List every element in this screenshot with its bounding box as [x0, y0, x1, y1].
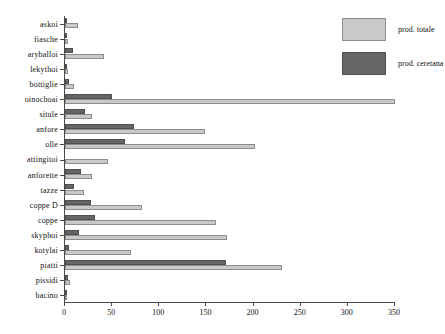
- category-label: coppe D: [30, 200, 58, 209]
- y-tick-mark: [60, 190, 64, 191]
- bar-prod-totale: [65, 205, 142, 210]
- category-label: tazze: [41, 185, 58, 194]
- x-tick-label: 350: [388, 308, 400, 317]
- category-label: coppe: [38, 215, 58, 224]
- y-tick-mark: [60, 220, 64, 221]
- y-tick-mark: [60, 175, 64, 176]
- table-row: anforette: [64, 167, 394, 182]
- y-tick-mark: [60, 205, 64, 206]
- y-tick-mark: [60, 24, 64, 25]
- category-label: askoi: [40, 19, 58, 28]
- table-row: bacino: [64, 288, 394, 303]
- category-label: skyphoi: [31, 231, 58, 240]
- table-row: bottiglie: [64, 76, 394, 91]
- bar-prod-totale: [65, 190, 84, 195]
- y-tick-mark: [60, 39, 64, 40]
- legend-label: prod. totale: [398, 25, 434, 34]
- y-tick-mark: [60, 280, 64, 281]
- category-label: pissidi: [36, 276, 58, 285]
- x-tick-label: 250: [294, 308, 306, 317]
- category-label: bottiglie: [30, 79, 58, 88]
- x-tick-mark: [205, 302, 206, 306]
- table-row: kotylai: [64, 243, 394, 258]
- bar-prod-totale: [65, 235, 227, 240]
- bar-prod-totale: [65, 159, 108, 164]
- table-row: pissidi: [64, 273, 394, 288]
- category-label: situle: [39, 110, 58, 119]
- bar-prod-totale: [65, 280, 70, 285]
- bar-prod-totale: [65, 295, 67, 300]
- category-label: piatti: [40, 261, 58, 270]
- x-tick-mark: [253, 302, 254, 306]
- y-tick-mark: [60, 129, 64, 130]
- x-tick-label: 100: [152, 308, 164, 317]
- bar-prod-totale: [65, 23, 78, 28]
- x-tick-mark: [111, 302, 112, 306]
- legend-swatch-total: [342, 18, 386, 41]
- y-tick-mark: [60, 235, 64, 236]
- y-tick-mark: [60, 265, 64, 266]
- bar-prod-totale: [65, 174, 92, 179]
- legend-item: prod. totale: [342, 18, 434, 41]
- x-tick-mark: [300, 302, 301, 306]
- y-tick-mark: [60, 54, 64, 55]
- bar-prod-totale: [65, 99, 395, 104]
- bar-prod-totale: [65, 220, 216, 225]
- table-row: situle: [64, 107, 394, 122]
- table-row: attingitoi: [64, 152, 394, 167]
- category-label: attingitoi: [27, 155, 58, 164]
- category-label: lekythoi: [30, 64, 58, 73]
- x-tick-mark: [158, 302, 159, 306]
- legend-swatch-ceretana: [342, 52, 386, 75]
- table-row: piatti: [64, 258, 394, 273]
- x-tick-label: 300: [341, 308, 353, 317]
- x-tick-mark: [347, 302, 348, 306]
- x-tick-mark: [394, 302, 395, 306]
- bar-prod-totale: [65, 54, 104, 59]
- x-tick-label: 200: [247, 308, 259, 317]
- table-row: skyphoi: [64, 227, 394, 242]
- bar-prod-totale: [65, 69, 68, 74]
- y-tick-mark: [60, 84, 64, 85]
- y-tick-mark: [60, 69, 64, 70]
- legend-item: prod. ceretana: [342, 52, 443, 75]
- x-tick-label: 50: [107, 308, 115, 317]
- bar-prod-totale: [65, 84, 74, 89]
- category-label: anfore: [36, 125, 58, 134]
- category-label: olle: [45, 140, 58, 149]
- bar-prod-totale: [65, 265, 282, 270]
- y-tick-mark: [60, 250, 64, 251]
- category-label: aryballoi: [28, 49, 58, 58]
- x-tick-mark: [64, 302, 65, 306]
- y-tick-mark: [60, 114, 64, 115]
- y-tick-mark: [60, 160, 64, 161]
- bar-prod-totale: [65, 39, 68, 44]
- table-row: oinochoai: [64, 92, 394, 107]
- y-tick-mark: [60, 295, 64, 296]
- x-tick-label: 150: [199, 308, 211, 317]
- bar-prod-totale: [65, 114, 92, 119]
- bar-prod-totale: [65, 250, 131, 255]
- bar-prod-totale: [65, 144, 255, 149]
- table-row: coppe: [64, 212, 394, 227]
- category-label: oinochoai: [25, 95, 58, 104]
- y-tick-mark: [60, 144, 64, 145]
- table-row: tazze: [64, 182, 394, 197]
- category-label: anforette: [28, 170, 58, 179]
- category-label: kotylai: [34, 246, 58, 255]
- y-tick-mark: [60, 99, 64, 100]
- bar-chart: askoifiaschearyballoilekythoibottiglieoi…: [0, 0, 445, 334]
- category-label: fiasche: [34, 34, 58, 43]
- x-tick-label: 0: [62, 308, 66, 317]
- table-row: olle: [64, 137, 394, 152]
- table-row: coppe D: [64, 197, 394, 212]
- category-label: bacino: [35, 291, 58, 300]
- table-row: anfore: [64, 122, 394, 137]
- bar-prod-totale: [65, 129, 205, 134]
- legend-label: prod. ceretana: [398, 59, 443, 68]
